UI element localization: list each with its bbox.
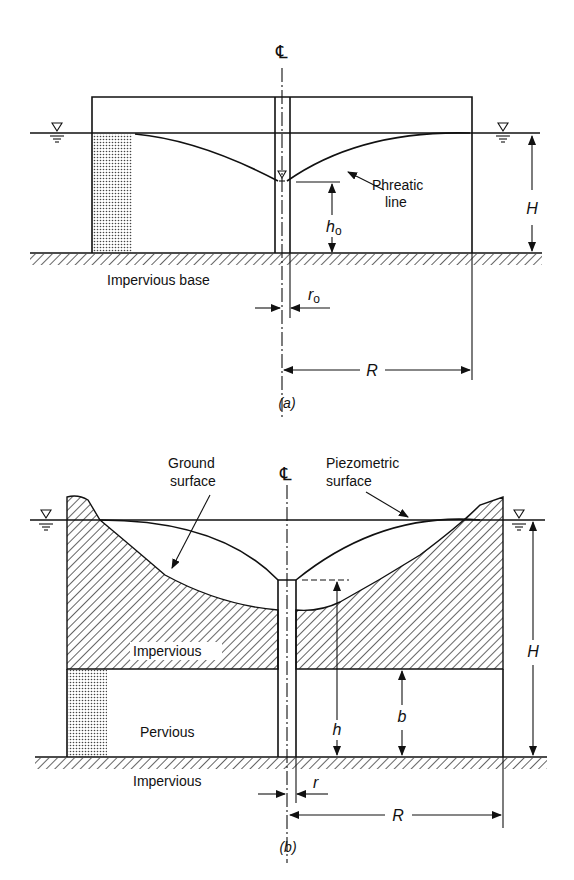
impervious-layer-right-b [296, 497, 503, 669]
phreatic-line-left-a [135, 134, 278, 181]
ground-surface-leader-arrow [172, 495, 210, 568]
impervious-base-hatch-a [30, 254, 542, 265]
phreatic-line-right-a [287, 133, 470, 181]
caption-a: (a) [278, 395, 295, 411]
phreatic-label-1: Phreatic [372, 177, 423, 193]
well-drawdown-diagram: ℄ Phreatic l [0, 0, 574, 880]
piezometric-label-1: Piezometric [326, 455, 399, 471]
b-label: b [398, 708, 407, 725]
h-label: h [333, 721, 342, 738]
pervious-label: Pervious [140, 724, 194, 740]
impervious-base-hatch-b [35, 758, 547, 769]
H-label-a: H [526, 200, 538, 217]
r0-label: ro [308, 286, 320, 306]
figure-b-confined-aquifer: ℄ Impervious Pervious [30, 455, 547, 863]
H-label-b: H [527, 643, 539, 660]
stipple-source-zone-b [68, 670, 107, 757]
centerline-symbol-b: ℄ [279, 464, 292, 484]
centerline-symbol-a: ℄ [275, 42, 288, 62]
piezometric-leader-arrow [366, 492, 408, 517]
h0-label: ho [326, 218, 342, 238]
impervious-base-label-a: Impervious base [107, 272, 210, 288]
phreatic-label-2: line [385, 194, 407, 210]
ground-surface-label-2: surface [170, 473, 216, 489]
ground-surface-label-1: Ground [168, 455, 215, 471]
r-label: r [313, 774, 319, 791]
R-label-a: R [366, 362, 378, 379]
R-label-b: R [392, 807, 404, 824]
piezometric-label-2: surface [326, 473, 372, 489]
stipple-source-zone-a [93, 134, 132, 253]
impervious-base-label-b: Impervious [133, 773, 201, 789]
impervious-upper-label: Impervious [133, 643, 201, 659]
caption-b: (b) [279, 839, 296, 855]
figure-a-unconfined-aquifer: ℄ Phreatic l [30, 42, 542, 418]
